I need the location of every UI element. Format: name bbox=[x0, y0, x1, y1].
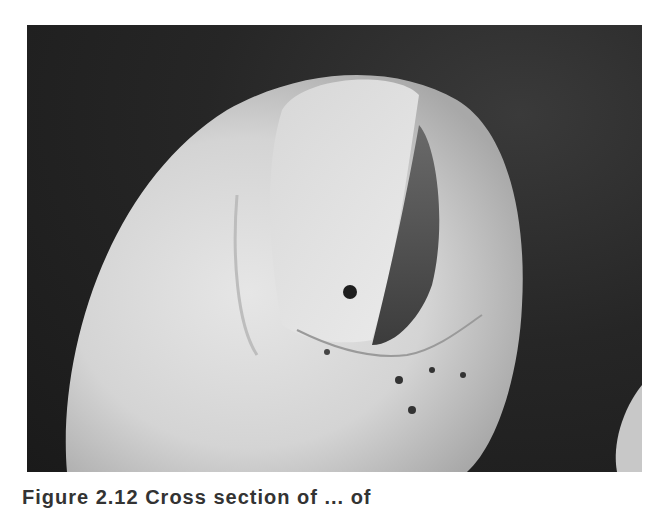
figure-photo bbox=[27, 25, 642, 472]
figure-caption: Figure 2.12 Cross section of ... of bbox=[22, 486, 372, 509]
